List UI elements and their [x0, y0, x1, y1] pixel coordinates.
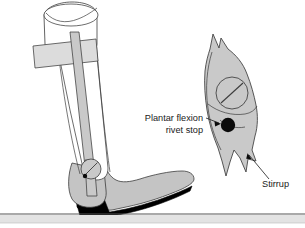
- figure-canvas: Plantar flexion rivet stop Stirrup: [0, 0, 305, 228]
- ground-band: [0, 215, 305, 223]
- cuff-opening: [44, 4, 98, 26]
- label-plantar-flexion-line1: Plantar flexion: [145, 113, 203, 123]
- label-stirrup: Stirrup: [262, 179, 289, 189]
- rivet-stop-small: [83, 174, 87, 178]
- orthosis-figure: Plantar flexion rivet stop Stirrup: [0, 0, 305, 228]
- label-plantar-flexion-line2: rivet stop: [166, 125, 203, 135]
- rivet-stop: [221, 118, 235, 132]
